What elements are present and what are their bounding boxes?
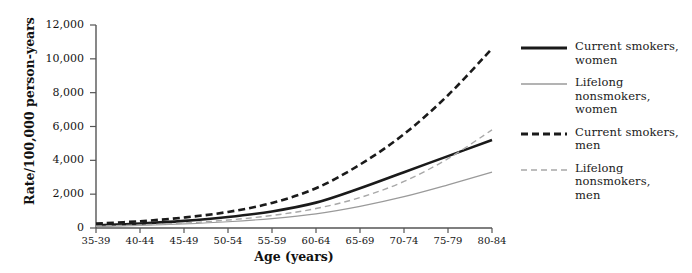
legend-label-line-1: Current smokers, (575, 39, 679, 53)
legend-label-line-1: Lifelong (575, 75, 624, 89)
legend-label-lifelong-nonsmokers-men: Lifelong nonsmokers, men (575, 162, 650, 203)
y-axis-tick-label: 2,000 (0, 187, 84, 200)
legend-label-line-2: women (575, 53, 617, 67)
chart-figure: Rate/100,000 person-years Age (years) Cu… (0, 0, 692, 273)
y-axis-tick-label: 10,000 (0, 52, 84, 65)
legend-label-line-3: women (575, 102, 617, 116)
y-axis-tick-label: 6,000 (0, 120, 84, 133)
y-axis-tick-label: 8,000 (0, 86, 84, 99)
legend-label-current-smokers-women: Current smokers, women (575, 40, 679, 67)
series-line (96, 130, 492, 226)
series-line (96, 49, 492, 224)
legend-swatch-lifelong-nonsmokers-women (520, 76, 568, 90)
series-line (96, 140, 492, 225)
legend-label-current-smokers-men: Current smokers, men (575, 126, 679, 153)
y-axis-tick-label: 12,000 (0, 18, 84, 31)
y-axis-tick-label: 0 (0, 221, 84, 234)
legend-label-line-1: Lifelong (575, 161, 624, 175)
legend-label-line-1: Current smokers, (575, 125, 679, 139)
series-line (96, 172, 492, 226)
legend-label-line-2: men (575, 138, 600, 152)
legend-item-lifelong-nonsmokers-women[interactable]: Lifelong nonsmokers, women (520, 76, 688, 117)
y-axis-title: Rate/100,000 person-years (22, 17, 37, 205)
x-axis-ticks (96, 228, 492, 233)
legend-label-line-3: men (575, 188, 600, 202)
x-axis-tick-label: 80-84 (464, 235, 520, 246)
data-series-group (96, 49, 492, 227)
legend-label-line-2: nonsmokers, (575, 89, 650, 103)
legend-swatch-lifelong-nonsmokers-men (520, 162, 568, 176)
legend-label-lifelong-nonsmokers-women: Lifelong nonsmokers, women (575, 76, 650, 117)
y-axis-tick-label: 4,000 (0, 153, 84, 166)
legend-item-current-smokers-men[interactable]: Current smokers, men (520, 126, 688, 153)
chart-legend: Current smokers, women Lifelong nonsmoke… (520, 40, 688, 211)
legend-label-line-2: nonsmokers, (575, 174, 650, 188)
legend-item-lifelong-nonsmokers-men[interactable]: Lifelong nonsmokers, men (520, 162, 688, 203)
legend-item-current-smokers-women[interactable]: Current smokers, women (520, 40, 688, 67)
y-axis-ticks (90, 25, 96, 228)
legend-swatch-current-smokers-women (520, 40, 568, 54)
legend-swatch-current-smokers-men (520, 126, 568, 140)
x-axis-title: Age (years) (96, 249, 492, 264)
